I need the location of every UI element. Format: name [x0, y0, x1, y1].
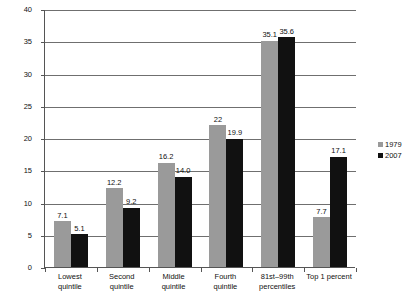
x-axis-label-line: quintile	[200, 282, 252, 292]
x-axis-tick-labels: LowestquintileSecondquintileMiddlequinti…	[44, 272, 355, 302]
bar-value-label: 17.1	[324, 147, 353, 155]
y-axis-tick-label: 20	[24, 135, 32, 143]
y-axis-tick	[41, 236, 45, 237]
bar-1979-2[interactable]	[158, 163, 175, 267]
bar-value-label: 14.0	[169, 167, 198, 175]
gridline	[45, 236, 356, 237]
bar-2007-2[interactable]	[175, 177, 192, 267]
gridline	[45, 107, 356, 108]
chart-legend: 19792007	[378, 139, 402, 161]
x-axis-label-line: 81st–99th	[251, 272, 303, 282]
x-axis-label-line: Middle	[148, 272, 200, 282]
x-axis-tick-label: Fourthquintile	[200, 272, 252, 291]
bar-group: 12.29.2	[106, 9, 140, 267]
legend-item-1979[interactable]: 1979	[378, 139, 402, 150]
y-axis-tick-label: 30	[24, 71, 32, 79]
x-axis-tick-label: 81st–99thpercentiles	[251, 272, 303, 291]
bar-value-label: 19.9	[220, 129, 249, 137]
y-axis-tick	[41, 107, 45, 108]
y-axis-tick	[41, 139, 45, 140]
bar-value-label: 9.2	[117, 198, 146, 206]
bar-value-label: 7.1	[48, 212, 77, 220]
x-axis-tick-label: Lowestquintile	[44, 272, 96, 291]
y-axis-tick-label: 10	[24, 200, 32, 208]
y-axis-tick	[41, 75, 45, 76]
bar-chart: 0510152025303540 Percent 7.15.112.29.216…	[0, 0, 416, 306]
gridline	[45, 75, 356, 76]
x-axis-tick	[356, 268, 357, 272]
plot-area: 7.15.112.29.216.214.02219.935.135.67.717…	[44, 10, 355, 268]
bar-group: 7.717.1	[313, 9, 347, 267]
x-axis-label-line: quintile	[44, 282, 96, 292]
gridline	[45, 42, 356, 43]
gridline	[45, 139, 356, 140]
legend-label: 2007	[385, 150, 402, 161]
y-axis-tick-label: 15	[24, 167, 32, 175]
bar-group: 35.135.6	[261, 9, 295, 267]
x-axis-label-line: quintile	[148, 282, 200, 292]
x-axis-tick-label: Middlequintile	[148, 272, 200, 291]
bar-group: 7.15.1	[54, 9, 88, 267]
bar-1979-5[interactable]	[313, 217, 330, 267]
y-axis-tick	[41, 171, 45, 172]
x-axis-label-line: percentiles	[251, 282, 303, 292]
x-axis-tick-label: Secondquintile	[96, 272, 148, 291]
bar-value-label: 22	[203, 116, 232, 124]
x-axis-label-line: quintile	[96, 282, 148, 292]
bar-1979-3[interactable]	[209, 125, 226, 267]
bar-value-label: 12.2	[100, 179, 129, 187]
bar-value-label: 16.2	[152, 153, 181, 161]
y-axis-tick-label: 25	[24, 103, 32, 111]
bar-group: 2219.9	[209, 9, 243, 267]
bar-2007-0[interactable]	[71, 234, 88, 267]
bar-group: 16.214.0	[158, 9, 192, 267]
x-axis-label-line: Fourth	[200, 272, 252, 282]
legend-swatch-icon	[378, 153, 383, 158]
x-axis-tick-label: Top 1 percent	[303, 272, 355, 282]
y-axis-tick	[41, 42, 45, 43]
y-axis-tick	[41, 204, 45, 205]
gridline	[45, 204, 356, 205]
y-axis-tick-label: 40	[24, 6, 32, 14]
y-axis-tick-labels: 0510152025303540	[0, 10, 40, 268]
gridline	[45, 10, 356, 11]
x-axis-label-line: Lowest	[44, 272, 96, 282]
x-axis-label-line: Top 1 percent	[303, 272, 355, 282]
y-axis-tick	[41, 10, 45, 11]
legend-label: 1979	[385, 139, 402, 150]
y-axis-tick-label: 0	[28, 264, 32, 272]
x-axis-label-line: Second	[96, 272, 148, 282]
bar-value-label: 5.1	[65, 225, 94, 233]
bar-2007-5[interactable]	[330, 157, 347, 267]
bar-value-label: 35.6	[272, 28, 301, 36]
bar-1979-4[interactable]	[261, 41, 278, 267]
bar-2007-3[interactable]	[226, 139, 243, 267]
gridline	[45, 171, 356, 172]
y-axis-tick-label: 35	[24, 38, 32, 46]
legend-swatch-icon	[378, 142, 383, 147]
y-axis-tick-label: 5	[28, 232, 32, 240]
bar-2007-1[interactable]	[123, 208, 140, 267]
bar-2007-4[interactable]	[278, 37, 295, 267]
legend-item-2007[interactable]: 2007	[378, 150, 402, 161]
